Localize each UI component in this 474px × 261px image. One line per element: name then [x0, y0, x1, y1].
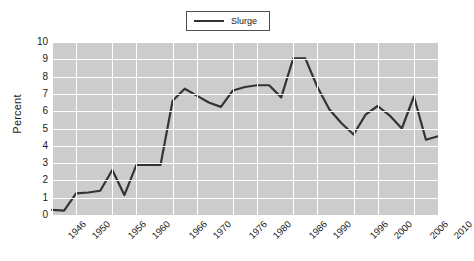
y-axis-label: Percent	[11, 79, 23, 149]
y-tick-label: 3	[42, 158, 48, 168]
y-tick-label: 8	[42, 72, 48, 82]
x-tick-label: 1966	[187, 219, 209, 241]
chart-legend: Slurge	[186, 11, 270, 31]
gridline-horizontal	[52, 59, 438, 60]
legend-label-slurge: Slurge	[231, 17, 257, 26]
y-axis-tick-labels: 012345678910	[24, 36, 48, 218]
gridline-vertical	[414, 42, 415, 215]
y-tick-label: 7	[42, 89, 48, 99]
y-tick-label: 4	[42, 141, 48, 151]
x-tick-label: 1990	[332, 219, 354, 241]
x-tick-label: 2010	[452, 219, 474, 241]
gridline-vertical	[136, 42, 137, 215]
gridline-horizontal	[52, 180, 438, 181]
gridline-vertical	[438, 42, 439, 215]
gridline-vertical	[378, 42, 379, 215]
gridline-vertical	[197, 42, 198, 215]
x-tick-label: 1950	[90, 219, 112, 241]
y-tick-label: 9	[42, 54, 48, 64]
gridline-horizontal	[52, 146, 438, 147]
y-tick-label: 10	[37, 37, 48, 47]
y-tick-label: 6	[42, 106, 48, 116]
gridline-horizontal	[52, 77, 438, 78]
x-tick-label: 1980	[271, 219, 293, 241]
x-tick-label: 1976	[247, 219, 269, 241]
gridline-horizontal	[52, 163, 438, 164]
y-tick-label: 1	[42, 193, 48, 203]
x-tick-label: 2006	[428, 219, 450, 241]
x-tick-label: 1946	[66, 219, 88, 241]
y-tick-label: 2	[42, 175, 48, 185]
x-tick-label: 1956	[127, 219, 149, 241]
gridline-horizontal	[52, 198, 438, 199]
y-tick-label: 5	[42, 124, 48, 134]
y-tick-label: 0	[42, 210, 48, 220]
gridline-vertical	[76, 42, 77, 215]
x-tick-label: 2000	[392, 219, 414, 241]
x-tick-label: 1970	[211, 219, 233, 241]
legend-line-swatch-slurge	[194, 20, 224, 22]
gridline-vertical	[257, 42, 258, 215]
x-tick-label: 1996	[368, 219, 390, 241]
gridline-vertical	[233, 42, 234, 215]
x-axis-tick-labels: 1946195019561960196619701976198019861990…	[52, 215, 438, 261]
gridline-horizontal	[52, 94, 438, 95]
gridline-vertical	[173, 42, 174, 215]
plot-area	[52, 42, 438, 215]
gridline-horizontal	[52, 129, 438, 130]
gridline-vertical	[354, 42, 355, 215]
gridline-vertical	[52, 42, 53, 215]
x-tick-label: 1960	[151, 219, 173, 241]
gridline-horizontal	[52, 111, 438, 112]
x-tick-label: 1986	[307, 219, 329, 241]
gridline-vertical	[293, 42, 294, 215]
gridline-horizontal	[52, 42, 438, 43]
gridline-vertical	[112, 42, 113, 215]
gridline-vertical	[317, 42, 318, 215]
